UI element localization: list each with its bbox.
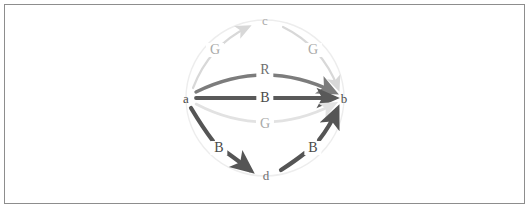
graph-node-b[interactable]: b (341, 92, 348, 105)
edge-label-a-d-B: B (210, 141, 227, 155)
edge-label-d-b-B: B (304, 141, 321, 155)
graph-edge (191, 108, 213, 141)
edge-label-a-b-B: B (256, 91, 273, 105)
edge-label-a-c-G: G (206, 43, 224, 57)
edge-label-c-b-G: G (304, 43, 322, 57)
graph-node-c[interactable]: c (262, 14, 268, 27)
screenshot-root: abcd GGRBGBB (0, 0, 530, 209)
edge-label-a-b-R: R (256, 63, 273, 77)
graph-node-d[interactable]: d (263, 169, 270, 182)
graph-figure: abcd GGRBGBB (0, 0, 530, 209)
graph-node-a[interactable]: a (183, 92, 189, 105)
edge-label-a-b-G: G (256, 117, 274, 131)
